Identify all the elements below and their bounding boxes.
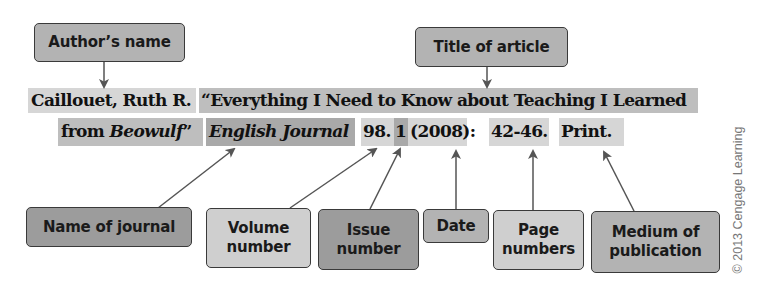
label-journal-text: Name of journal bbox=[43, 218, 175, 237]
label-issue-line1: Issue bbox=[347, 221, 390, 240]
arrow-volume bbox=[290, 149, 376, 208]
label-author-text: Author’s name bbox=[48, 33, 170, 52]
arrow-medium bbox=[604, 152, 634, 211]
label-author-name: Author’s name bbox=[34, 23, 185, 62]
label-issue-number: Issue number bbox=[318, 209, 419, 270]
label-pages-line2: numbers bbox=[502, 240, 575, 259]
label-page-numbers: Page numbers bbox=[493, 210, 584, 270]
label-date-text: Date bbox=[436, 217, 475, 236]
label-volume-line2: number bbox=[226, 238, 290, 257]
label-name-of-journal: Name of journal bbox=[26, 207, 192, 247]
label-medium-line2: publication bbox=[609, 242, 702, 261]
copyright-notice: © 2013 Cengage Learning bbox=[731, 127, 745, 274]
label-volume-number: Volume number bbox=[206, 208, 311, 268]
label-date: Date bbox=[423, 209, 489, 243]
label-volume-line1: Volume bbox=[228, 219, 290, 238]
label-medium-line1: Medium of bbox=[612, 223, 700, 242]
label-title-text: Title of article bbox=[434, 38, 550, 57]
label-pages-line1: Page bbox=[518, 221, 559, 240]
label-issue-line2: number bbox=[336, 240, 400, 259]
arrow-issue bbox=[370, 149, 400, 209]
label-medium-of-publication: Medium of publication bbox=[591, 211, 720, 273]
arrow-journal bbox=[158, 149, 234, 208]
label-title-of-article: Title of article bbox=[415, 27, 568, 67]
